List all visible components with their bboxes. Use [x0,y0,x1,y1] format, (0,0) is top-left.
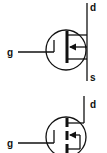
label-drain-top: d [90,2,96,13]
mosfet-diagram: d s g d g [0,0,107,153]
arrow-icon [69,44,76,51]
label-gate-bottom: g [7,138,13,149]
label-drain-bottom: d [90,99,96,110]
label-source-top: s [90,72,96,83]
label-gate-top: g [7,47,13,58]
mosfet-symbol-depletion [18,3,87,81]
mosfet-symbol-enhancement [18,96,86,153]
arrow-icon [69,132,76,139]
